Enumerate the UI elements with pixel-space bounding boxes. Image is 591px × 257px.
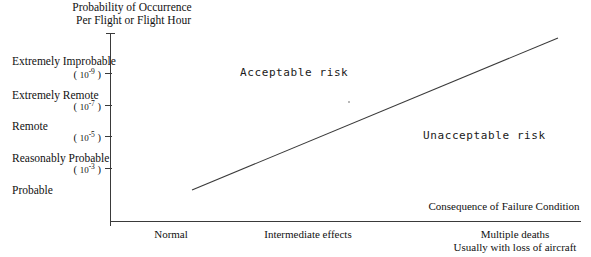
y-category-extremely-improbable: Extremely Improbable <box>12 55 104 67</box>
y-axis-tick-3 <box>105 136 112 137</box>
y-tick-1-open: ( <box>74 69 78 80</box>
y-axis-tick-1 <box>105 73 112 74</box>
y-tick-4-close: ) <box>98 164 102 175</box>
risk-matrix-chart: Probability of Occurrence Per Flight or … <box>0 0 591 257</box>
y-tick-4-open: ( <box>74 164 78 175</box>
y-axis-tick-4 <box>105 168 112 169</box>
y-tick-2-base: 10 <box>80 102 89 112</box>
x-category-intermediate-effects: Intermediate effects <box>243 228 373 241</box>
region-label-unacceptable-risk: Unacceptable risk <box>423 129 546 142</box>
y-axis-title-line1: Probability of Occurrence <box>52 1 212 14</box>
y-axis-tick-2 <box>105 105 112 106</box>
x-category-normal-line1: Normal <box>126 228 216 241</box>
y-tick-1-base: 10 <box>80 70 89 80</box>
y-tick-3-base: 10 <box>80 133 89 143</box>
y-tick-label-1e-9: ( 10-9 ) <box>12 69 101 81</box>
y-tick-3-exp: -5 <box>89 130 95 139</box>
y-tick-label-1e-5: ( 10-5 ) <box>12 132 101 144</box>
y-tick-1-exp: -9 <box>89 67 95 76</box>
y-tick-2-open: ( <box>74 101 78 112</box>
y-category-probable: Probable <box>12 184 104 196</box>
x-category-multiple-line1: Multiple deaths <box>440 228 590 241</box>
scan-artifact-speck <box>348 101 350 103</box>
x-category-multiple-line2: Usually with loss of aircraft <box>440 241 590 254</box>
x-axis-line <box>110 221 581 222</box>
y-tick-3-open: ( <box>74 132 78 143</box>
region-label-acceptable-risk: Acceptable risk <box>240 66 348 79</box>
y-tick-label-1e-7: ( 10-7 ) <box>12 101 101 113</box>
x-axis-origin-tick <box>110 217 111 226</box>
x-category-intermediate-line1: Intermediate effects <box>243 228 373 241</box>
y-tick-1-close: ) <box>98 69 102 80</box>
x-axis-title: Consequence of Failure Condition <box>424 200 584 212</box>
y-tick-2-exp: -7 <box>89 99 95 108</box>
y-tick-4-exp: -3 <box>89 162 95 171</box>
x-category-normal: Normal <box>126 228 216 241</box>
y-tick-3-close: ) <box>98 132 102 143</box>
y-tick-4-base: 10 <box>80 165 89 175</box>
y-axis-title: Probability of Occurrence Per Flight or … <box>52 1 212 27</box>
y-axis-title-line2: Per Flight or Flight Hour <box>52 14 212 27</box>
x-category-multiple-deaths: Multiple deaths Usually with loss of air… <box>440 228 590 253</box>
y-tick-2-close: ) <box>98 101 102 112</box>
y-tick-label-1e-3: ( 10-3 ) <box>12 164 101 176</box>
